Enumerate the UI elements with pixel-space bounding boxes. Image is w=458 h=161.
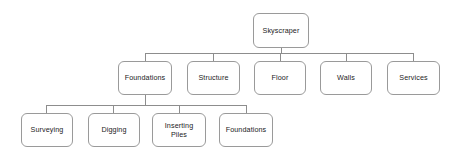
node-foundations-sub-label: Foundations xyxy=(226,125,267,135)
node-structure[interactable]: Structure xyxy=(187,61,240,95)
edge-to-foundations xyxy=(145,53,146,61)
node-walls[interactable]: Walls xyxy=(320,61,372,95)
node-foundations-sub[interactable]: Foundations xyxy=(219,113,273,147)
node-structure-label: Structure xyxy=(198,73,228,83)
node-foundations-label: Foundations xyxy=(125,73,166,83)
diagram-canvas: Skyscraper Foundations Structure Floor W… xyxy=(0,0,458,161)
edge-to-digging xyxy=(113,105,114,113)
node-services[interactable]: Services xyxy=(387,61,440,95)
node-digging[interactable]: Digging xyxy=(88,113,140,147)
edge-to-foundations-sub xyxy=(246,105,247,113)
node-skyscraper-label: Skyscraper xyxy=(263,26,300,36)
node-inserting-piles-label: Inserting Piles xyxy=(165,121,193,140)
edge-to-floor xyxy=(280,53,281,61)
node-digging-label: Digging xyxy=(101,125,126,135)
edge-foundations-stem xyxy=(145,95,146,105)
node-floor[interactable]: Floor xyxy=(254,61,306,95)
edge-to-surveying xyxy=(46,105,47,113)
node-foundations[interactable]: Foundations xyxy=(118,61,172,95)
node-walls-label: Walls xyxy=(337,73,355,83)
node-floor-label: Floor xyxy=(272,73,289,83)
node-surveying[interactable]: Surveying xyxy=(21,113,73,147)
node-inserting-piles[interactable]: Inserting Piles xyxy=(152,113,206,147)
edge-level3-bus xyxy=(46,105,246,106)
edge-to-walls xyxy=(346,53,347,61)
edge-to-services xyxy=(413,53,414,61)
node-skyscraper[interactable]: Skyscraper xyxy=(253,13,309,48)
edge-to-structure xyxy=(213,53,214,61)
node-services-label: Services xyxy=(399,73,427,83)
edge-to-inserting-piles xyxy=(179,105,180,113)
node-surveying-label: Surveying xyxy=(31,125,64,135)
